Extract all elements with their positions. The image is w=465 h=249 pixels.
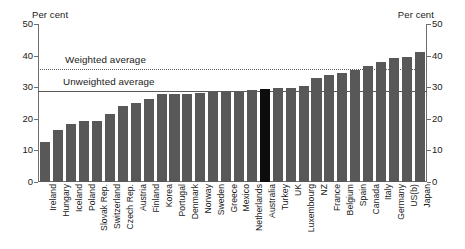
y-axis-tick-label-right: 40 <box>432 51 443 61</box>
category-label-slot: Sweden <box>207 183 220 247</box>
category-label-japan: Japan <box>423 184 432 208</box>
bar-slot <box>258 24 271 182</box>
bar-portugal <box>169 94 179 182</box>
bar-slot <box>362 24 375 182</box>
category-label-slot: Greece <box>220 183 233 247</box>
category-label-slot: Hungary <box>52 183 65 247</box>
bar-slot <box>194 24 207 182</box>
category-label-slot: Luxembourg <box>297 183 310 247</box>
y-axis-tick-label-left: 0 <box>28 177 33 187</box>
bar-slot <box>168 24 181 182</box>
y-axis-tick-right <box>427 150 431 151</box>
bar-slot <box>233 24 246 182</box>
bar-greece <box>221 92 231 182</box>
bar-luxembourg <box>299 86 309 182</box>
category-label-slot: Netherlands <box>246 183 259 247</box>
bar-slot <box>284 24 297 182</box>
bar-slot <box>246 24 259 182</box>
category-label-slot: Finland <box>142 183 155 247</box>
category-label-slot: Canada <box>362 183 375 247</box>
bar-australia <box>260 89 270 182</box>
bar-turkey <box>273 88 283 182</box>
bar-netherlands <box>247 90 257 182</box>
bar-slot <box>104 24 117 182</box>
category-label-slot: Czech Rep. <box>116 183 129 247</box>
bar-mexico <box>234 92 244 182</box>
plot-area: 01020304050 01020304050 Weighted average… <box>38 24 427 182</box>
bar-germany <box>389 58 399 182</box>
bar-spain <box>350 70 360 182</box>
category-label-slot: Spain <box>349 183 362 247</box>
y-axis-tick-left <box>34 182 38 183</box>
bar-slot <box>310 24 323 182</box>
category-label-slot: Germany <box>387 183 400 247</box>
y-axis-tick-right <box>427 87 431 88</box>
y-axis-tick-left <box>34 56 38 57</box>
bar-slot <box>220 24 233 182</box>
bar-slot <box>336 24 349 182</box>
bar-slot <box>65 24 78 182</box>
bar-series <box>39 24 426 182</box>
bar-slot <box>91 24 104 182</box>
category-label-slot: Denmark <box>181 183 194 247</box>
bar-italy <box>376 62 386 182</box>
y-axis-tick-label-left: 50 <box>22 19 33 29</box>
bar-slot <box>52 24 65 182</box>
category-label-slot: Mexico <box>233 183 246 247</box>
y-axis-unit-label-left: Per cent <box>32 9 68 20</box>
bar-japan <box>415 52 425 182</box>
bar-finland <box>144 99 154 182</box>
bar-sweden <box>208 92 218 182</box>
bar-slot <box>207 24 220 182</box>
bar-denmark <box>182 94 192 182</box>
bar-hungary <box>53 130 63 182</box>
category-label-slot: Switzerland <box>104 183 117 247</box>
y-axis-tick-label-left: 30 <box>22 82 33 92</box>
category-label-slot: NZ <box>310 183 323 247</box>
category-label-slot: Norway <box>194 183 207 247</box>
bar-iceland <box>66 124 76 182</box>
bar-korea <box>157 94 167 182</box>
bar-slot <box>297 24 310 182</box>
category-label-slot: Korea <box>155 183 168 247</box>
bar-slot <box>78 24 91 182</box>
category-label-slot: Belgium <box>336 183 349 247</box>
bar-france <box>324 75 334 182</box>
y-axis-tick-right <box>427 119 431 120</box>
bar-slot <box>387 24 400 182</box>
y-axis-tick-left <box>34 150 38 151</box>
y-axis-unit-label-right: Per cent <box>398 9 434 20</box>
bar-slot <box>271 24 284 182</box>
bar-belgium <box>337 73 347 182</box>
bar-slot <box>129 24 142 182</box>
y-axis-tick-label-right: 20 <box>432 114 443 124</box>
y-axis-tick-left <box>34 24 38 25</box>
y-axis-tick-right <box>427 24 431 25</box>
bar-switzerland <box>105 114 115 182</box>
bar-slot <box>155 24 168 182</box>
category-label-slot: France <box>323 183 336 247</box>
x-axis-category-labels: IrelandHungaryIcelandPolandSlovak Rep.Sw… <box>39 183 426 247</box>
bar-us-b <box>402 57 412 182</box>
category-label-slot: US(b) <box>400 183 413 247</box>
bar-slot <box>400 24 413 182</box>
y-axis-tick-label-right: 10 <box>432 145 443 155</box>
bar-slot <box>181 24 194 182</box>
y-axis-tick-label-right: 50 <box>432 19 443 29</box>
bar-ireland <box>40 142 50 182</box>
bar-canada <box>363 66 373 182</box>
bar-uk <box>286 88 296 182</box>
category-label-slot: Austria <box>129 183 142 247</box>
bar-norway <box>195 93 205 182</box>
bar-austria <box>131 103 141 182</box>
bar-slot <box>116 24 129 182</box>
category-label-slot: Iceland <box>65 183 78 247</box>
bar-slot <box>349 24 362 182</box>
category-label-slot: Slovak Rep. <box>91 183 104 247</box>
category-label-slot: Portugal <box>168 183 181 247</box>
bar-poland <box>79 121 89 182</box>
bar-slot <box>142 24 155 182</box>
bar-chart: Per cent Per cent 01020304050 0102030405… <box>0 0 465 249</box>
y-axis-tick-label-right: 30 <box>432 82 443 92</box>
category-label-slot: UK <box>284 183 297 247</box>
